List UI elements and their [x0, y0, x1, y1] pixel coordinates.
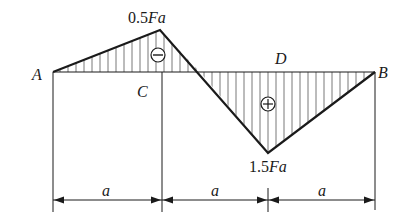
- plus-sign-icon: [261, 97, 275, 111]
- max-negative-label: 0.5Fa: [128, 9, 166, 26]
- negative-region-hatch: [60, 20, 196, 80]
- moment-curve: [53, 30, 375, 153]
- point-label-c: C: [137, 83, 148, 100]
- max-positive-label: 1.5Fa: [249, 158, 287, 175]
- diagram-svg: A B C D 0.5Fa 1.5Fa a a a: [0, 0, 412, 224]
- point-label-b: B: [378, 64, 388, 81]
- point-label-a: A: [31, 66, 42, 83]
- minus-sign-icon: [151, 48, 165, 62]
- dimension-label-2: a: [211, 182, 219, 199]
- dimension-label-1: a: [102, 182, 110, 199]
- moment-diagram: A B C D 0.5Fa 1.5Fa a a a: [0, 0, 412, 224]
- dimension-label-3: a: [318, 182, 326, 199]
- point-label-d: D: [274, 50, 287, 67]
- positive-region-hatch: [204, 70, 372, 160]
